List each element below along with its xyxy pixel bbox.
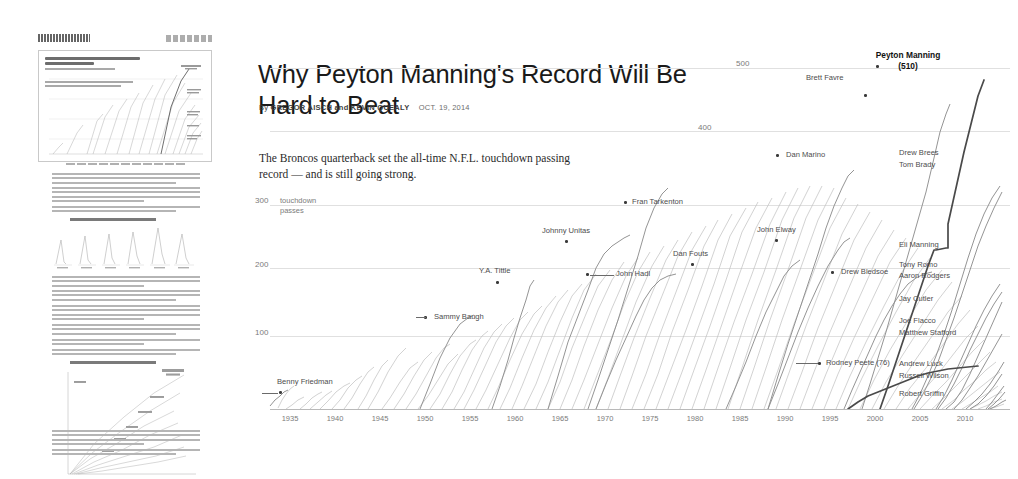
label-peyton-manning[interactable]: Peyton Manning (510) xyxy=(858,50,958,72)
label-dan-marino[interactable]: Dan Marino xyxy=(786,150,825,160)
thumbnail-nav-items[interactable] xyxy=(166,35,212,42)
thumbnail-body-paragraph-9 xyxy=(52,349,200,358)
label-robert-griffin[interactable]: Robert Griffin xyxy=(899,389,944,399)
label-john-hadl[interactable]: John Hadl xyxy=(616,269,650,279)
label-eli-manning[interactable]: Eli Manning xyxy=(899,240,939,250)
thumbnail-body-paragraph-2 xyxy=(52,187,200,205)
label-ya-tittle[interactable]: Y.A. Tittle xyxy=(479,266,511,276)
x-tick-1960: 1960 xyxy=(507,414,524,423)
x-tick-2005: 2005 xyxy=(912,414,929,423)
thumbnail-body-paragraph-6 xyxy=(52,305,200,323)
x-tick-1975: 1975 xyxy=(642,414,659,423)
label-drew-bledsoe[interactable]: Drew Bledsoe xyxy=(841,267,888,277)
thumbnail-graphic-caption xyxy=(66,163,186,165)
thumbnail-masthead xyxy=(38,34,212,46)
label-russell-wilson[interactable]: Russell Wilson xyxy=(899,371,949,381)
label-peyton-manning-total: (510) xyxy=(898,61,918,71)
article-page-thumbnail[interactable] xyxy=(36,30,214,430)
x-tick-1995: 1995 xyxy=(822,414,839,423)
dot-brett-favre xyxy=(864,94,867,97)
label-peyton-manning-name: Peyton Manning xyxy=(876,50,941,60)
thumbnail-body-paragraph-1 xyxy=(52,173,200,186)
dot-rodney-peete xyxy=(818,362,821,365)
x-tick-1940: 1940 xyxy=(327,414,344,423)
x-tick-1935: 1935 xyxy=(282,414,299,423)
dot-ya-tittle xyxy=(496,281,499,284)
dot-peyton-manning xyxy=(876,65,879,68)
label-benny-friedman[interactable]: Benny Friedman xyxy=(277,377,333,387)
x-tick-1945: 1945 xyxy=(372,414,389,423)
thumbnail-smallmultiples-title xyxy=(70,218,156,221)
thumbnail-body-paragraph-8 xyxy=(52,339,200,348)
thumbnail-chart2-title xyxy=(70,361,156,364)
x-tick-1980: 1980 xyxy=(687,414,704,423)
label-dan-fouts[interactable]: Dan Fouts xyxy=(673,249,708,259)
chart-lines-layer xyxy=(248,28,1010,432)
label-rodney-peete[interactable]: Rodney Peete (76) xyxy=(826,358,890,368)
article-main: Why Peyton Manning's Record Will Be Hard… xyxy=(248,28,1010,432)
label-andrew-luck[interactable]: Andrew Luck xyxy=(899,359,943,369)
dot-johnny-unitas xyxy=(565,240,568,243)
label-tony-romo[interactable]: Tony Romo xyxy=(899,260,937,270)
label-johnny-unitas[interactable]: Johnny Unitas xyxy=(542,226,590,236)
dot-dan-fouts xyxy=(691,263,694,266)
x-tick-1950: 1950 xyxy=(417,414,434,423)
label-drew-brees[interactable]: Drew Brees xyxy=(899,148,939,158)
thumbnail-chart-graphic xyxy=(43,59,207,161)
td-passes-chart[interactable]: 500 400 300 200 100 touchdown passes xyxy=(248,28,1010,432)
thumbnail-hero-graphic[interactable] xyxy=(38,50,212,162)
dot-john-hadl xyxy=(586,273,589,276)
x-tick-1965: 1965 xyxy=(552,414,569,423)
x-tick-1990: 1990 xyxy=(777,414,794,423)
dot-benny-friedman xyxy=(279,391,282,394)
thumbnail-body-paragraph-4 xyxy=(52,276,200,289)
x-tick-1955: 1955 xyxy=(462,414,479,423)
thumbnail-body-paragraph-3 xyxy=(52,206,200,215)
thumbnail-body-paragraph-5 xyxy=(52,290,200,303)
label-tom-brady[interactable]: Tom Brady xyxy=(899,160,935,170)
label-joe-flacco[interactable]: Joe Flacco xyxy=(899,316,936,326)
label-jay-cutler[interactable]: Jay Cutler xyxy=(899,294,933,304)
x-tick-2010: 2010 xyxy=(957,414,974,423)
thumbnail-body-paragraph-10 xyxy=(52,430,200,448)
label-brett-favre[interactable]: Brett Favre xyxy=(806,73,844,83)
x-tick-2000: 2000 xyxy=(867,414,884,423)
thumbnail-body-paragraph-7 xyxy=(52,324,200,337)
leader-benny-friedman xyxy=(262,393,278,394)
x-tick-1970: 1970 xyxy=(597,414,614,423)
label-sammy-baugh[interactable]: Sammy Baugh xyxy=(434,312,484,322)
x-axis-line xyxy=(270,409,1010,410)
dot-drew-bledsoe xyxy=(831,271,834,274)
thumbnail-body-paragraph-11 xyxy=(52,449,200,458)
label-aaron-rodgers[interactable]: Aaron Rodgers xyxy=(899,271,950,281)
leader-john-hadl xyxy=(590,275,614,276)
dot-fran-tarkenton xyxy=(624,201,627,204)
thumbnail-small-multiples-chart xyxy=(52,224,202,272)
x-tick-1985: 1985 xyxy=(732,414,749,423)
label-john-elway[interactable]: John Elway xyxy=(757,225,796,235)
nyt-logo-icon xyxy=(38,34,90,42)
label-matthew-stafford[interactable]: Matthew Stafford xyxy=(899,328,956,338)
dot-john-elway xyxy=(775,239,778,242)
leader-sammy-baugh xyxy=(416,317,426,318)
label-fran-tarkenton[interactable]: Fran Tarkenton xyxy=(632,197,683,207)
dot-dan-marino xyxy=(776,154,779,157)
thumbnail-secondary-chart xyxy=(54,366,200,479)
leader-rodney-peete xyxy=(796,363,818,364)
